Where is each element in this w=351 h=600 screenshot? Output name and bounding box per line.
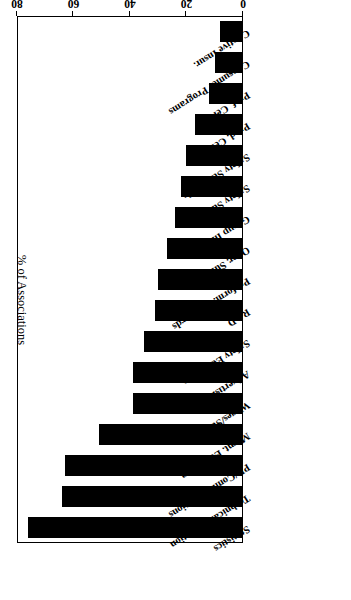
axis-tick-label: 20 bbox=[181, 0, 193, 10]
category-label: R&D bbox=[246, 307, 252, 316]
category-label: Captive Insur. bbox=[246, 28, 252, 37]
axis-tick bbox=[129, 11, 130, 16]
category-label: PR/Communications bbox=[246, 462, 252, 471]
figure-rotation-wrapper: StatisticsTechnical EducationPR/Communic… bbox=[0, 0, 351, 600]
axis-title: % of Associations bbox=[14, 255, 29, 345]
axis-tick bbox=[186, 11, 187, 16]
category-label: Safety Standards bbox=[246, 152, 252, 161]
category-label: Statistics bbox=[246, 524, 252, 533]
category-label: Prof. Cert. bbox=[246, 90, 252, 99]
category-label: Safety Education bbox=[246, 338, 252, 347]
category-label: Advertising bbox=[246, 369, 252, 378]
category-label: Oper. Survey bbox=[246, 245, 252, 254]
axis-tick bbox=[73, 11, 74, 16]
axis-tick-label: 80 bbox=[11, 0, 23, 10]
category-label: Group Insur. bbox=[246, 214, 252, 223]
category-label: Mgmt. Education bbox=[246, 431, 252, 440]
category-label: Perform. Standards bbox=[246, 276, 252, 285]
category-label: Technical Education bbox=[246, 493, 252, 502]
category-label: Consumer Programs bbox=[246, 59, 252, 68]
axis-tick bbox=[16, 11, 17, 16]
axis-tick-label: 60 bbox=[68, 0, 80, 10]
axis-tick-label: 40 bbox=[124, 0, 136, 10]
category-label: Prod. Cert. bbox=[246, 121, 252, 130]
axis-tick bbox=[242, 11, 243, 16]
bar-chart-figure: StatisticsTechnical EducationPR/Communic… bbox=[0, 0, 351, 600]
category-label: Wages/Survey bbox=[246, 400, 252, 409]
axis-tick-label: 0 bbox=[240, 0, 246, 10]
category-axis-labels: StatisticsTechnical EducationPR/Communic… bbox=[0, 0, 351, 600]
category-label: Safety Survey bbox=[246, 183, 252, 192]
